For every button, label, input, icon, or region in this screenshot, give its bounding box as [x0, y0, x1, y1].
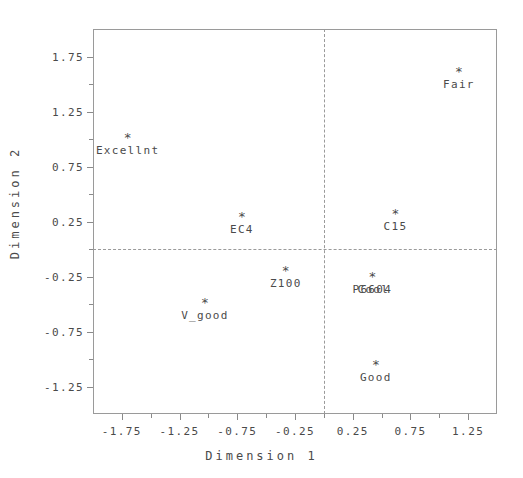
asterisk-marker-icon: * [123, 132, 133, 144]
y-axis-minor-tick [89, 139, 93, 140]
y-axis-tick-label: -0.25 [44, 270, 84, 283]
x-axis-tick-label: -0.75 [217, 425, 257, 438]
data-point-label: Z100 [270, 277, 302, 290]
y-axis-tick [87, 57, 93, 58]
plot-frame [93, 29, 497, 414]
y-axis-minor-tick [89, 249, 93, 250]
y-axis-tick-label: 0.25 [52, 215, 84, 228]
x-axis-tick [353, 414, 354, 420]
x-axis-minor-tick [151, 414, 152, 418]
asterisk-marker-icon: * [367, 271, 377, 283]
asterisk-marker-icon: * [371, 359, 381, 371]
y-axis-tick-label: -1.25 [44, 380, 84, 393]
data-point-label: Fair [443, 78, 475, 91]
y-axis-tick-label: 1.75 [52, 50, 84, 63]
correspondence-analysis-scatter-plot: 1.751.250.750.25-0.25-0.75-1.25-1.75-1.2… [0, 0, 523, 478]
y-axis-tick-label: -0.75 [44, 325, 84, 338]
y-axis-tick [87, 387, 93, 388]
y-axis-tick [87, 277, 93, 278]
asterisk-marker-icon: * [281, 265, 291, 277]
y-axis-minor-tick [89, 194, 93, 195]
data-point-label: EC4 [230, 223, 254, 236]
x-axis-tick [237, 414, 238, 420]
x-axis-tick-label: 0.75 [394, 425, 426, 438]
x-axis-tick [180, 414, 181, 420]
x-axis-minor-tick [208, 414, 209, 418]
y-axis-tick [87, 112, 93, 113]
x-axis-minor-tick [266, 414, 267, 418]
data-point-label: Cool [357, 283, 389, 296]
x-axis-tick [410, 414, 411, 420]
x-axis-minor-tick [324, 414, 325, 418]
y-axis-tick [87, 167, 93, 168]
x-axis-title: Dimension 1 [0, 449, 523, 463]
data-point-label: Excellnt [96, 144, 159, 157]
y-axis-title: Dimension 2 [8, 103, 22, 303]
reference-line-vertical [324, 29, 325, 414]
y-axis-minor-tick [89, 304, 93, 305]
x-axis-tick [468, 414, 469, 420]
x-axis-tick-label: 1.25 [452, 425, 484, 438]
asterisk-marker-icon: * [237, 211, 247, 223]
x-axis-minor-tick [439, 414, 440, 418]
x-axis-tick-label: -1.75 [102, 425, 142, 438]
x-axis-tick [295, 414, 296, 420]
y-axis-tick [87, 332, 93, 333]
data-point-label: Good [360, 371, 392, 384]
reference-line-horizontal [93, 249, 497, 250]
x-axis-tick [122, 414, 123, 420]
x-axis-minor-tick [382, 414, 383, 418]
asterisk-marker-icon: * [390, 208, 400, 220]
y-axis-minor-tick [89, 84, 93, 85]
y-axis-tick-label: 1.25 [52, 105, 84, 118]
asterisk-marker-icon: * [454, 66, 464, 78]
y-axis-minor-tick [89, 359, 93, 360]
data-point-label: V_good [181, 309, 229, 322]
data-point-label: C15 [384, 220, 408, 233]
y-axis-tick-label: 0.75 [52, 160, 84, 173]
x-axis-tick-label: -1.25 [160, 425, 200, 438]
y-axis-tick [87, 222, 93, 223]
x-axis-tick-label: 0.25 [337, 425, 369, 438]
x-axis-tick-label: -0.25 [275, 425, 315, 438]
asterisk-marker-icon: * [200, 297, 210, 309]
